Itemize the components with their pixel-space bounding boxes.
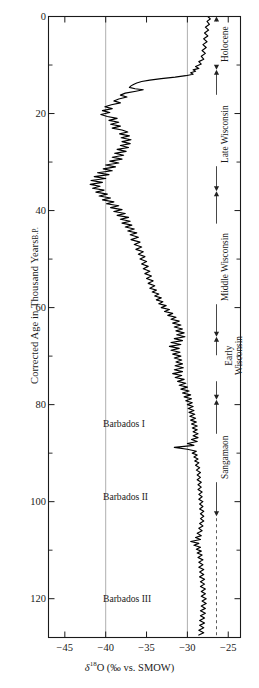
stage-arrow-up	[214, 337, 219, 342]
stage-label-line: Early	[224, 336, 234, 375]
x-axis-title: δ18O (‰ vs. SMOW)	[0, 660, 259, 673]
stage-arrow-down	[214, 65, 219, 70]
x-axis-tick-labels: −45−40−35−30−25	[0, 643, 259, 659]
stage-label-line: Middle Wisconsin	[221, 233, 230, 301]
stage-label: Holocene	[221, 26, 230, 62]
stage-label-line: Wisconsin	[234, 336, 244, 375]
stage-arrow-down	[214, 511, 219, 516]
stage-label-line: Sangamaon	[221, 436, 230, 479]
x-tick-label: −25	[208, 643, 248, 654]
barbados-label: Barbados I	[103, 419, 145, 429]
x-axis-title-rest: O (‰ vs. SMOW)	[97, 662, 175, 673]
stage-arrow-down	[214, 395, 219, 400]
stage-arrow-down	[214, 332, 219, 337]
x-tick-label: −30	[167, 643, 207, 654]
stage-label-line: Holocene	[221, 26, 230, 62]
stage-label: Sangamaon	[221, 436, 230, 479]
barbados-label: Barbados II	[103, 492, 148, 502]
plot-frame	[49, 17, 241, 638]
stage-arrow-up	[214, 191, 219, 196]
stage-label: Middle Wisconsin	[221, 233, 230, 301]
x-tick-label: −40	[86, 643, 126, 654]
stage-label: Late Wisconsin	[221, 106, 230, 164]
stage-label: EarlyWisconsin	[224, 336, 244, 375]
paleoclimate-figure: Corrected Age in Thousand YearsB.P. 0204…	[0, 0, 259, 688]
stage-arrow-up	[214, 17, 219, 22]
plot-area	[0, 0, 259, 688]
x-tick-label: −35	[127, 643, 167, 654]
x-tick-label: −45	[45, 643, 85, 654]
stage-label-line: Late Wisconsin	[221, 106, 230, 164]
stage-arrow-up	[214, 70, 219, 75]
stage-arrow-up	[214, 400, 219, 405]
x-axis-title-superscript: 18	[90, 660, 97, 668]
barbados-label: Barbados III	[103, 594, 151, 604]
data-curve	[90, 17, 210, 636]
stage-arrow-down	[214, 186, 219, 191]
